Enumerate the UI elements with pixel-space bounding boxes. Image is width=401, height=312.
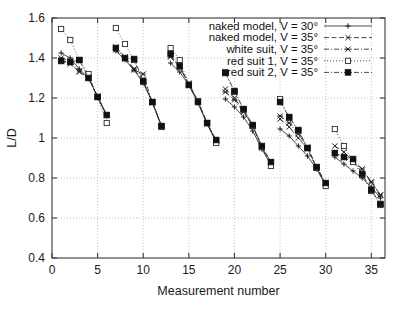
x-tick-label: 25	[273, 263, 287, 277]
series-layer	[58, 25, 383, 207]
legend: naked model, V = 30°naked model, V = 35°…	[209, 20, 372, 78]
marker-square-filled	[286, 114, 292, 120]
marker-square-filled	[314, 164, 320, 170]
x-tick-label: 20	[228, 263, 242, 277]
marker-square-filled	[113, 45, 119, 51]
marker-square-filled	[305, 145, 311, 151]
y-tick-label: 1	[38, 131, 45, 145]
marker-square-filled	[345, 70, 351, 76]
y-tick-label: 1.2	[28, 91, 45, 105]
marker-square-filled	[277, 99, 283, 105]
y-tick-label: 1.4	[28, 51, 45, 65]
marker-square-filled	[204, 120, 210, 126]
marker-square-filled	[213, 137, 219, 143]
y-tick-label: 0.4	[28, 251, 45, 265]
ld-vs-measurement-chart: 0.40.60.811.21.41.605101520253035Measure…	[0, 0, 401, 312]
legend-label-3: white suit, V = 35°	[225, 43, 318, 55]
x-tick-label: 0	[49, 263, 56, 277]
series-segment	[116, 51, 162, 126]
marker-square-filled	[77, 57, 83, 63]
x-axis-title: Measurement number	[157, 284, 279, 298]
marker-square-filled	[268, 159, 274, 165]
marker-square-filled	[296, 127, 302, 133]
marker-square-filled	[241, 106, 247, 112]
marker-square-filled	[159, 123, 165, 129]
chart-container: 0.40.60.811.21.41.605101520253035Measure…	[0, 0, 401, 312]
marker-square-filled	[104, 112, 110, 118]
y-tick-label: 0.6	[28, 211, 45, 225]
marker-square-open	[168, 45, 173, 50]
marker-square-open	[113, 25, 118, 30]
marker-square-open	[59, 26, 64, 31]
marker-square-filled	[150, 99, 156, 105]
marker-square-filled	[332, 150, 338, 156]
marker-square-filled	[67, 59, 73, 65]
series-segment	[61, 61, 107, 115]
marker-square-filled	[186, 82, 192, 88]
series-segment	[280, 129, 326, 185]
marker-square-open	[332, 126, 337, 131]
marker-square-filled	[350, 156, 356, 162]
marker-square-open	[104, 120, 109, 125]
marker-square-filled	[250, 122, 256, 128]
marker-square-filled	[359, 171, 365, 177]
series-segment	[225, 99, 271, 165]
marker-square-filled	[140, 78, 146, 84]
marker-square-filled	[341, 154, 347, 160]
marker-square-filled	[177, 63, 183, 69]
marker-square-filled	[323, 180, 329, 186]
marker-square-filled	[86, 75, 92, 81]
legend-label-2: naked model, V = 35°	[209, 31, 318, 43]
x-tick-label: 30	[319, 263, 333, 277]
marker-square-open	[177, 57, 182, 62]
x-tick-label: 5	[94, 263, 101, 277]
marker-square-filled	[58, 58, 64, 64]
marker-square-filled	[378, 201, 384, 207]
marker-square-open	[122, 41, 127, 46]
y-tick-label: 1.6	[28, 11, 45, 25]
x-tick-label: 35	[365, 263, 379, 277]
series-segment	[61, 29, 107, 123]
marker-square-filled	[168, 51, 174, 57]
marker-square-open	[341, 143, 346, 148]
x-tick-label: 15	[182, 263, 196, 277]
series-segment	[61, 60, 107, 115]
marker-square-filled	[232, 88, 238, 94]
marker-square-filled	[195, 99, 201, 105]
legend-label-5: red suit 2, V = 35°	[227, 66, 318, 78]
marker-square-filled	[131, 56, 137, 62]
y-axis-title: L/D	[5, 128, 19, 147]
legend-label-4: red suit 1, V = 35°	[227, 55, 318, 67]
marker-square-filled	[369, 187, 375, 193]
marker-square-open	[345, 58, 350, 63]
legend-label-1: naked model, V = 30°	[209, 20, 318, 32]
marker-square-filled	[95, 94, 101, 100]
x-tick-label: 10	[137, 263, 151, 277]
y-tick-label: 0.8	[28, 171, 45, 185]
marker-square-filled	[122, 55, 128, 61]
marker-square-open	[68, 37, 73, 42]
series-segment	[171, 63, 217, 142]
marker-square-filled	[259, 143, 265, 149]
